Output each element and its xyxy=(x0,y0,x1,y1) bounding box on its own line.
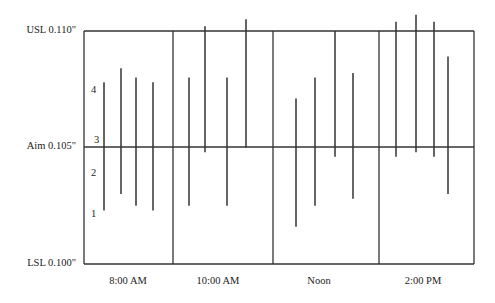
zone-label-2: 2 xyxy=(91,167,96,178)
aim-label: Aim 0.105" xyxy=(0,140,76,151)
x-label-2pm: 2:00 PM xyxy=(405,275,441,286)
usl-label: USL 0.110" xyxy=(0,24,76,35)
zone-label-1: 1 xyxy=(91,208,96,219)
x-label-8am: 8:00 AM xyxy=(109,275,147,286)
lsl-label: LSL 0.100" xyxy=(0,257,76,268)
zone-label-3: 3 xyxy=(94,134,99,145)
zone-label-4: 4 xyxy=(91,84,96,95)
range-bars xyxy=(104,15,448,227)
x-label-noon: Noon xyxy=(307,275,330,286)
x-label-10am: 10:00 AM xyxy=(197,275,240,286)
